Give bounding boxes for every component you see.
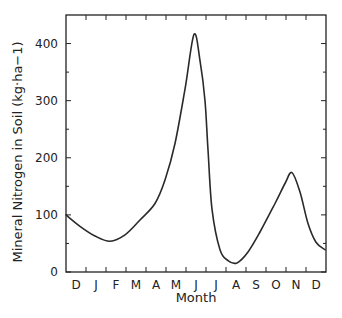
x-axis-ticks: DJFMAMJJASOND (71, 15, 320, 292)
mineral-nitrogen-chart: 0100200300400 DJFMAMJJASOND Month Minera… (0, 0, 342, 318)
x-axis-title: Month (176, 290, 217, 305)
plot-frame (66, 15, 326, 272)
x-tick-label: J (93, 278, 98, 292)
y-tick-label: 0 (50, 265, 58, 279)
x-tick-label: O (271, 278, 280, 292)
nitrogen-curve (66, 34, 325, 264)
x-tick-label: A (232, 278, 241, 292)
x-tick-label: A (152, 278, 161, 292)
y-tick-label: 100 (35, 208, 58, 222)
x-tick-label: N (292, 278, 301, 292)
y-tick-label: 400 (35, 37, 58, 51)
x-tick-label: D (311, 278, 320, 292)
y-axis-title: Mineral Nitrogen in Soil (kg·ha−1) (10, 41, 25, 262)
y-tick-label: 200 (35, 151, 58, 165)
x-tick-label: D (71, 278, 80, 292)
x-tick-label: F (113, 278, 120, 292)
x-tick-label: M (131, 278, 141, 292)
y-axis-ticks: 0100200300400 (35, 37, 326, 279)
y-tick-label: 300 (35, 94, 58, 108)
x-tick-label: S (252, 278, 260, 292)
